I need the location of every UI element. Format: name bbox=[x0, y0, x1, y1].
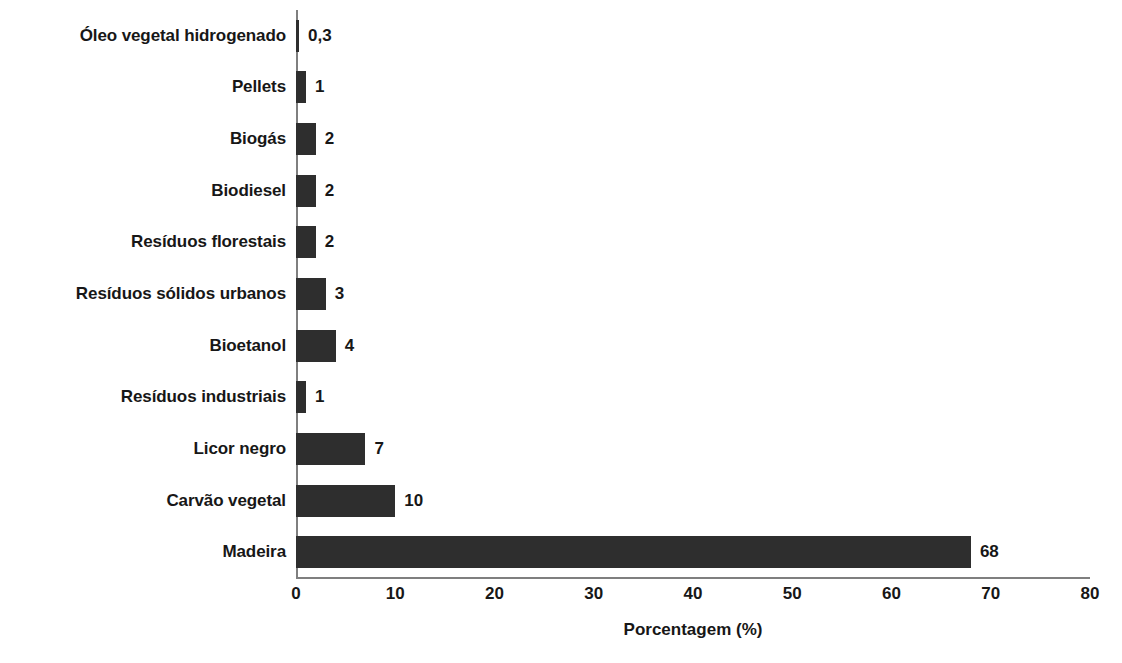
bar bbox=[296, 71, 306, 103]
bar-value-label: 3 bbox=[326, 284, 344, 304]
bar-row: Pellets1 bbox=[0, 62, 1122, 114]
category-label: Biogás bbox=[230, 129, 286, 149]
bar-track: 1 bbox=[296, 71, 1090, 103]
x-axis-tick-label: 50 bbox=[783, 584, 802, 604]
bar-value-label: 0,3 bbox=[299, 26, 332, 46]
category-label: Bioetanol bbox=[209, 336, 286, 356]
category-label: Licor negro bbox=[194, 439, 286, 459]
bar-track: 1 bbox=[296, 381, 1090, 413]
bar-track: 4 bbox=[296, 330, 1090, 362]
x-axis-tick-label: 10 bbox=[386, 584, 405, 604]
x-axis-tick-label: 70 bbox=[981, 584, 1000, 604]
bar-value-label: 2 bbox=[316, 181, 334, 201]
x-axis-tick-label: 80 bbox=[1081, 584, 1100, 604]
bar-row: Resíduos sólidos urbanos3 bbox=[0, 268, 1122, 320]
bar-row: Óleo vegetal hidrogenado0,3 bbox=[0, 10, 1122, 62]
bar-track: 3 bbox=[296, 278, 1090, 310]
bar-track: 7 bbox=[296, 433, 1090, 465]
bar-rows: Óleo vegetal hidrogenado0,3Pellets1Biogá… bbox=[0, 10, 1122, 578]
category-label: Resíduos sólidos urbanos bbox=[76, 284, 286, 304]
bar-value-label: 2 bbox=[316, 129, 334, 149]
bar bbox=[296, 381, 306, 413]
bar-value-label: 10 bbox=[395, 491, 423, 511]
bar-track: 2 bbox=[296, 175, 1090, 207]
x-axis-tick-label: 40 bbox=[684, 584, 703, 604]
x-axis-tick-label: 60 bbox=[882, 584, 901, 604]
bar-row: Resíduos florestais2 bbox=[0, 217, 1122, 269]
bar-value-label: 1 bbox=[306, 77, 324, 97]
bar-value-label: 1 bbox=[306, 387, 324, 407]
category-label: Resíduos industriais bbox=[121, 387, 286, 407]
bar bbox=[296, 175, 316, 207]
category-label: Resíduos florestais bbox=[131, 232, 286, 252]
x-axis-title: Porcentagem (%) bbox=[296, 620, 1090, 640]
bar-row: Bioetanol4 bbox=[0, 320, 1122, 372]
bar-row: Biogás2 bbox=[0, 113, 1122, 165]
bar-row: Carvão vegetal10 bbox=[0, 475, 1122, 527]
x-axis-tick-label: 0 bbox=[291, 584, 300, 604]
x-axis-tick-label: 30 bbox=[584, 584, 603, 604]
bar-track: 0,3 bbox=[296, 20, 1090, 52]
bar bbox=[296, 330, 336, 362]
bar-row: Licor negro7 bbox=[0, 423, 1122, 475]
bar-value-label: 2 bbox=[316, 232, 334, 252]
bar-value-label: 7 bbox=[365, 439, 383, 459]
category-label: Óleo vegetal hidrogenado bbox=[80, 26, 286, 46]
category-label: Madeira bbox=[222, 542, 286, 562]
bar-value-label: 68 bbox=[971, 542, 999, 562]
x-axis-tick-labels: 01020304050607080 bbox=[296, 584, 1090, 610]
bar-track: 10 bbox=[296, 485, 1090, 517]
bar-track: 2 bbox=[296, 226, 1090, 258]
bar bbox=[296, 536, 971, 568]
bar-row: Madeira68 bbox=[0, 526, 1122, 578]
bar bbox=[296, 226, 316, 258]
bar-track: 2 bbox=[296, 123, 1090, 155]
bar bbox=[296, 278, 326, 310]
bar bbox=[296, 433, 365, 465]
bar-row: Biodiesel2 bbox=[0, 165, 1122, 217]
category-label: Pellets bbox=[232, 77, 286, 97]
category-label: Biodiesel bbox=[211, 181, 286, 201]
bar bbox=[296, 123, 316, 155]
bar-track: 68 bbox=[296, 536, 1090, 568]
x-axis-tick-label: 20 bbox=[485, 584, 504, 604]
category-label: Carvão vegetal bbox=[166, 491, 286, 511]
bar bbox=[296, 485, 395, 517]
bar-value-label: 4 bbox=[336, 336, 354, 356]
bar-chart: Óleo vegetal hidrogenado0,3Pellets1Biogá… bbox=[0, 0, 1122, 663]
bar-row: Resíduos industriais1 bbox=[0, 371, 1122, 423]
